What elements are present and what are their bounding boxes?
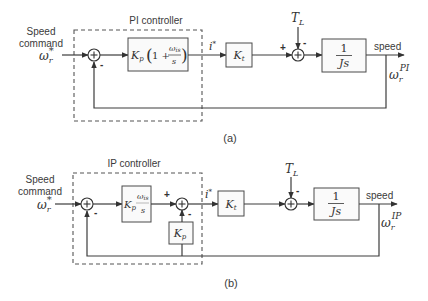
kt-subscript: t: [234, 204, 237, 212]
plant-numerator: 1: [333, 190, 340, 203]
omega-superscript: PI: [399, 63, 410, 73]
ip-controller-label: IP controller: [107, 158, 161, 169]
current-superscript: *: [213, 40, 217, 48]
omega-symbol: ω: [389, 68, 399, 82]
omega-symbol: ω: [37, 198, 47, 212]
close-paren: ): [181, 45, 188, 65]
kp-subscript: p: [131, 204, 136, 212]
plant-denominator: Js: [337, 57, 349, 70]
gain-subscript: p: [139, 55, 144, 63]
summing-junction-icon: [176, 198, 188, 210]
kt-subscript: t: [242, 55, 245, 63]
figure-b-ip-control: IP controller Speed command ωr* - Kp ωis…: [18, 158, 402, 289]
current-reference-symbol: i*: [209, 40, 217, 53]
integral-numerator: ωis: [169, 44, 181, 53]
current-superscript: *: [209, 188, 213, 196]
load-torque-symbol: TL: [285, 162, 298, 178]
input-label-line1: Speed: [27, 26, 56, 37]
symbol-superscript: *: [47, 194, 52, 205]
integral-plus-sign: +: [164, 189, 170, 200]
speed-output-label: speed: [374, 41, 401, 52]
speed-reference-symbol: ωr*: [37, 194, 52, 214]
input-label-line2: command: [18, 186, 62, 197]
figure-a-caption: (a): [223, 132, 236, 144]
input-label-line1: Speed: [26, 174, 55, 185]
plant-denominator: Js: [329, 205, 341, 218]
symbol-subscript: r: [49, 56, 54, 65]
integral-numerator: ωis: [137, 192, 149, 201]
pi-controller-label: PI controller: [129, 15, 183, 26]
omega-subscript: is: [144, 194, 149, 201]
one-plus: 1 +: [152, 50, 170, 61]
figure-a-pi-control: PI controller Speed command ωr* - Kp ( 1…: [19, 11, 410, 144]
input-label-line2: command: [19, 38, 63, 49]
symbol-superscript: *: [49, 45, 54, 56]
symbol-subscript: r: [47, 205, 52, 214]
feedback-minus-sign: -: [94, 207, 97, 218]
load-minus-sign: -: [303, 37, 306, 48]
omega-subscript: r: [399, 75, 404, 84]
load-torque-symbol: TL: [291, 11, 304, 27]
load-minus-sign: -: [296, 185, 299, 196]
speed-output-label: speed: [366, 190, 393, 201]
speed-output-symbol: ωrPI: [389, 63, 410, 84]
summing-junction-icon: [285, 198, 297, 210]
omega-superscript: IP: [391, 211, 403, 221]
proportional-minus-sign: -: [188, 208, 191, 219]
integral-denominator: s: [141, 206, 145, 215]
speed-output-symbol: ωrIP: [381, 211, 402, 232]
omega-symbol: ω: [39, 49, 49, 63]
integral-denominator: s: [172, 57, 176, 66]
tl-subscript: L: [298, 18, 304, 27]
feedback-minus-sign: -: [100, 59, 103, 70]
torque-plus-sign: +: [280, 42, 286, 53]
plant-numerator: 1: [341, 42, 348, 55]
tl-subscript: L: [292, 169, 298, 178]
omega-subscript: r: [391, 223, 396, 232]
summing-junction-icon: [88, 49, 100, 61]
kp-subscript: p: [182, 233, 187, 241]
block-diagram-figure: PI controller Speed command ωr* - Kp ( 1…: [0, 0, 428, 301]
summing-junction-icon: [81, 198, 93, 210]
summing-junction-icon: [292, 49, 304, 61]
current-reference-symbol: i*: [205, 188, 213, 201]
omega-symbol: ω: [381, 216, 391, 230]
omega-subscript: is: [176, 46, 181, 53]
figure-b-caption: (b): [224, 277, 237, 289]
